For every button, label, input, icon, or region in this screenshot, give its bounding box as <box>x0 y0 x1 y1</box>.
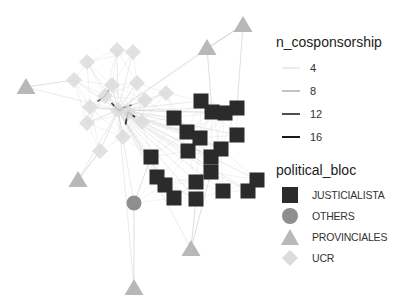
node-justicialista <box>180 125 195 140</box>
edge <box>90 107 100 151</box>
node-others <box>127 196 142 211</box>
legend-item-edge-12: 12 <box>276 102 401 125</box>
legend-label: 8 <box>310 85 316 97</box>
legend-label: 4 <box>310 62 316 74</box>
legend-label: OTHERS <box>312 210 355 222</box>
node-ucr <box>66 72 82 88</box>
legend-title-cosponsorship: n_cosponsorship <box>276 34 401 50</box>
node-ucr <box>158 85 174 101</box>
edge <box>87 52 133 62</box>
legend-item-edge-16: 16 <box>276 125 401 148</box>
circle-icon <box>280 206 300 226</box>
node-provinciales <box>198 39 217 55</box>
node-justicialista <box>181 144 196 159</box>
triangle-icon <box>280 227 300 247</box>
node-provinciales <box>125 279 144 295</box>
legend-label: 12 <box>310 108 322 120</box>
node-justicialista <box>241 184 256 199</box>
node-provinciales <box>69 171 88 187</box>
node-justicialista <box>158 178 173 193</box>
legend: n_cosponsorship 4 8 12 16 political_bloc… <box>276 34 401 268</box>
node-ucr <box>125 44 141 60</box>
node-justicialista <box>189 175 204 190</box>
edge <box>117 50 118 110</box>
legend-label: JUSTICIALISTA <box>312 189 384 201</box>
edge-swatch-icon <box>282 135 300 139</box>
nodes-layer <box>17 16 265 295</box>
node-justicialista <box>204 165 219 180</box>
edge <box>237 25 243 108</box>
legend-item-edge-4: 4 <box>276 56 401 79</box>
node-justicialista <box>167 111 182 126</box>
legend-label: PROVINCIALES <box>312 231 387 243</box>
node-justicialista <box>205 105 220 120</box>
legend-item-others: OTHERS <box>276 205 401 226</box>
legend-title-political-bloc: political_bloc <box>276 162 401 178</box>
node-justicialista <box>230 101 245 116</box>
node-provinciales <box>182 240 201 256</box>
node-justicialista <box>167 191 182 206</box>
edge-swatch-icon <box>282 89 300 93</box>
edge-swatch-icon <box>282 112 300 116</box>
legend-label: UCR <box>312 252 334 264</box>
edge <box>26 80 74 87</box>
legend-item-provinciales: PROVINCIALES <box>276 226 401 247</box>
node-justicialista <box>216 184 231 199</box>
node-justicialista <box>144 150 159 165</box>
square-icon <box>280 185 300 205</box>
node-ucr <box>115 129 131 145</box>
node-ucr <box>79 54 95 70</box>
node-justicialista <box>189 192 204 207</box>
node-justicialista <box>204 150 219 165</box>
legend-item-justicialista: JUSTICIALISTA <box>276 184 401 205</box>
node-ucr <box>92 143 108 159</box>
node-ucr <box>137 92 153 108</box>
edge-swatch-icon <box>282 66 300 70</box>
node-justicialista <box>230 128 245 143</box>
legend-item-ucr: UCR <box>276 247 401 268</box>
legend-item-edge-8: 8 <box>276 79 401 102</box>
legend-label: 16 <box>310 131 322 143</box>
node-justicialista <box>193 131 208 146</box>
node-ucr <box>129 75 145 91</box>
diamond-icon <box>280 248 300 268</box>
node-provinciales <box>234 16 253 32</box>
node-ucr <box>109 42 125 58</box>
